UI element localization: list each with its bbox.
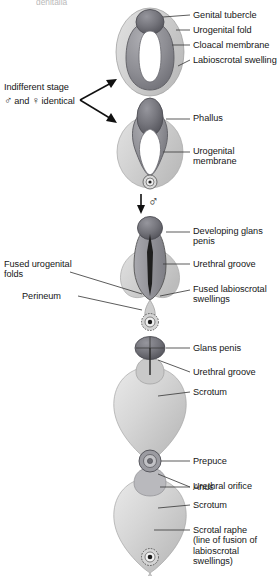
label-urethral-orifice: Urethral orifice bbox=[193, 481, 252, 491]
label-cloacal-membrane: Cloacal membrane bbox=[193, 40, 269, 50]
male-pathway-symbol-icon: ♂ bbox=[148, 196, 158, 206]
and-text: and bbox=[14, 96, 29, 106]
label-prepuce: Prepuce bbox=[193, 456, 227, 466]
label-fused-urogenital-folds: Fused urogenital folds bbox=[4, 259, 72, 280]
label-developing-glans-penis: Developing glans penis bbox=[193, 226, 263, 247]
stage-1-artwork bbox=[116, 8, 184, 96]
female-symbol-icon: ♀ bbox=[31, 95, 39, 105]
indifferent-stage-line1: Indifferent stage bbox=[4, 82, 69, 92]
label-urethral-groove-s4: Urethral groove bbox=[193, 367, 256, 377]
label-phallus: Phallus bbox=[193, 113, 223, 123]
identical-text: identical bbox=[42, 96, 75, 106]
label-urogenital-membrane: Urogenital membrane bbox=[193, 146, 237, 167]
male-symbol-icon: ♂ bbox=[4, 95, 12, 105]
figure-canvas: genitalia bbox=[0, 0, 277, 576]
label-genital-tubercle: Genital tubercle bbox=[193, 10, 257, 20]
indifferent-stage-line2: ♂ and ♀ identical bbox=[4, 95, 75, 106]
stage-2-artwork bbox=[117, 98, 183, 189]
label-urethral-groove-s3: Urethral groove bbox=[193, 259, 256, 269]
male-pathway-arrow bbox=[137, 194, 145, 214]
branch-arrows bbox=[80, 79, 117, 123]
label-scrotal-raphe: Scrotal raphe (line of fusion of labiosc… bbox=[193, 525, 257, 567]
label-urogenital-fold: Urogenital fold bbox=[193, 25, 252, 35]
label-perineum: Perineum bbox=[22, 291, 61, 301]
label-fused-labioscrotal-swellings: Fused labioscrotal swellings bbox=[193, 284, 267, 305]
label-labioscrotal-swelling: Labioscrotal swelling bbox=[193, 55, 277, 65]
stage-5-artwork bbox=[114, 450, 186, 576]
label-scrotum-s4: Scrotum bbox=[193, 387, 227, 397]
label-glans-penis: Glans penis bbox=[193, 343, 241, 353]
label-scrotum-s5: Scrotum bbox=[193, 500, 227, 510]
stage-3-artwork bbox=[120, 217, 179, 331]
